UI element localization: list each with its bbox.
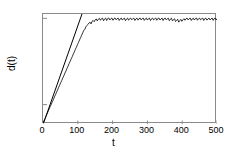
x-axis-tick-marks bbox=[43, 121, 217, 125]
x-tick-label: 200 bbox=[104, 125, 119, 135]
y-axis-tick-marks bbox=[43, 18, 47, 104]
x-axis-label: t bbox=[0, 137, 227, 148]
x-tick-label: 300 bbox=[139, 125, 154, 135]
divergence-data-curve bbox=[43, 18, 217, 123]
exponential-fit-line bbox=[44, 14, 82, 123]
x-tick-label: 500 bbox=[208, 125, 223, 135]
x-tick-label: 400 bbox=[174, 125, 189, 135]
figure-semilog-divergence-plot: d(t) 100 10-20 0100200300400500 t bbox=[0, 0, 227, 155]
x-tick-label: 0 bbox=[39, 125, 44, 135]
x-tick-label: 100 bbox=[69, 125, 84, 135]
plot-canvas bbox=[43, 14, 217, 124]
plot-area bbox=[42, 13, 216, 123]
